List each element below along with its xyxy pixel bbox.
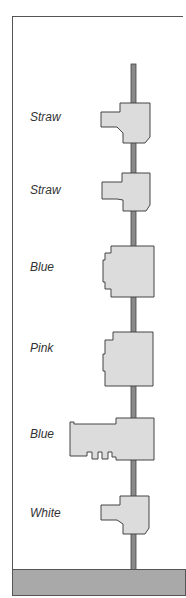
component-white <box>101 496 149 534</box>
label-straw-1: Straw <box>30 110 61 124</box>
label-pink: Pink <box>30 341 53 355</box>
assembly-diagram <box>0 0 186 598</box>
component-straw-2 <box>102 173 150 211</box>
component-blue-2 <box>70 418 154 460</box>
label-white: White <box>30 506 61 520</box>
label-blue-1: Blue <box>30 260 54 274</box>
component-straw-1 <box>101 103 150 143</box>
component-blue-1 <box>103 246 154 297</box>
label-straw-2: Straw <box>30 183 61 197</box>
component-pink <box>103 332 153 386</box>
label-blue-2: Blue <box>30 427 54 441</box>
base-plate <box>12 569 186 596</box>
